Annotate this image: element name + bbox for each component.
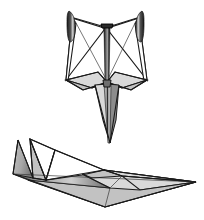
structure-diagram bbox=[0, 0, 204, 220]
figure-canvas: Folded polygonal structure — deployed an… bbox=[0, 0, 204, 220]
hub-node bbox=[103, 80, 111, 87]
shaft-cap bbox=[101, 24, 113, 28]
central-shaft bbox=[104, 26, 110, 82]
